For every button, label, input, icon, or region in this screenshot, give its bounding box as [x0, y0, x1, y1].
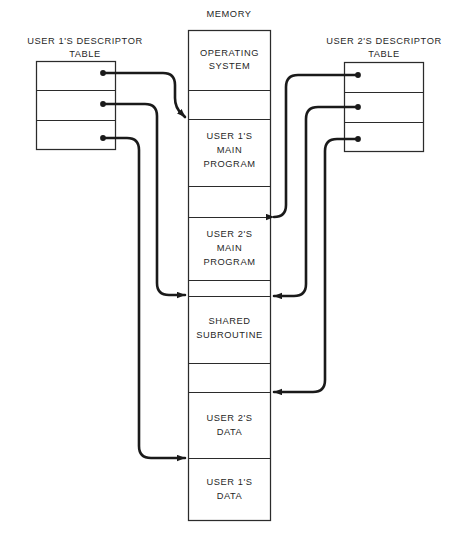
segment-2-line-3: PROGRAM — [204, 159, 256, 169]
segment-2-line-2: MAIN — [217, 145, 242, 155]
segment-4-line-2: MAIN — [217, 243, 242, 253]
memory-segment-user2-data: USER 2'S DATA — [207, 413, 253, 437]
memory-outline — [189, 31, 271, 521]
descriptor-table-memory-diagram: MEMORY OPERATING SYSTEM USER — [0, 0, 459, 542]
segment-8-line-1: USER 2'S — [207, 413, 253, 423]
memory-title: MEMORY — [207, 9, 252, 19]
segment-0-line-1: OPERATING — [200, 48, 259, 58]
segment-6-line-1: SHARED — [208, 316, 250, 326]
memory-segment-operating-system: OPERATING SYSTEM — [200, 48, 259, 71]
segment-4-line-3: PROGRAM — [204, 257, 256, 267]
user2-table-caption-line-1: USER 2'S DESCRIPTOR — [326, 36, 441, 46]
user2-table-caption-line-2: TABLE — [368, 49, 400, 59]
memory-segment-user2-main-program: USER 2'S MAIN PROGRAM — [204, 229, 256, 267]
memory-column: MEMORY OPERATING SYSTEM USER — [189, 9, 271, 521]
user2-pointer-1-connector — [274, 75, 358, 217]
user1-table-caption-line-1: USER 1'S DESCRIPTOR — [27, 36, 142, 46]
user1-pointer-3-connector — [103, 138, 185, 458]
segment-9-line-1: USER 1'S — [207, 477, 253, 487]
segment-2-line-1: USER 1'S — [207, 131, 253, 141]
segment-9-line-2: DATA — [217, 491, 243, 501]
user1-table-caption-line-2: TABLE — [69, 49, 101, 59]
memory-segment-user1-main-program: USER 1'S MAIN PROGRAM — [204, 131, 256, 169]
segment-8-line-2: DATA — [217, 427, 243, 437]
user2-descriptor-table: USER 2'S DESCRIPTOR TABLE — [326, 36, 441, 152]
segment-4-line-1: USER 2'S — [207, 229, 253, 239]
diagram-canvas: MEMORY OPERATING SYSTEM USER — [0, 0, 459, 542]
memory-segment-shared-subroutine: SHARED SUBROUTINE — [196, 316, 262, 340]
memory-segment-user1-data: USER 1'S DATA — [207, 477, 253, 501]
segment-0-line-2: SYSTEM — [209, 61, 251, 71]
user1-descriptor-table: USER 1'S DESCRIPTOR TABLE — [27, 36, 142, 150]
segment-6-line-2: SUBROUTINE — [196, 330, 262, 340]
